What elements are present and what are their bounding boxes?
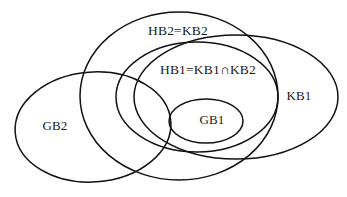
set-ellipse-gb2 <box>11 67 174 188</box>
set-ellipse-hb1 <box>116 42 278 152</box>
euler-diagram-canvas: HB2=KB2 HB1=KB1∩KB2 GB1 KB1 GB2 <box>0 0 347 197</box>
set-label-hb2-kb2: HB2=KB2 <box>148 23 208 38</box>
set-label-hb1: HB1=KB1∩KB2 <box>160 62 256 77</box>
set-label-gb2: GB2 <box>42 118 67 133</box>
set-label-gb1: GB1 <box>199 112 224 127</box>
euler-diagram-svg: HB2=KB2 HB1=KB1∩KB2 GB1 KB1 GB2 <box>0 0 347 197</box>
set-label-kb1: KB1 <box>286 88 311 103</box>
